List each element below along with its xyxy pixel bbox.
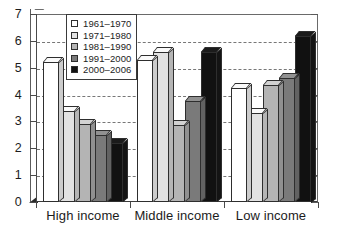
bar-side-face [263, 109, 268, 202]
x-tick-3 [318, 202, 319, 208]
legend-item-label: 1991–2000 [83, 53, 131, 64]
bar-side-face [91, 120, 96, 202]
x-tick-1 [130, 202, 131, 208]
y-axis-label-0: 0 [2, 195, 22, 209]
legend-swatch-icon [71, 55, 78, 62]
bar-side-face [279, 81, 284, 202]
y-axis-label-5: 5 [2, 61, 22, 75]
legend-item-label: 1961–1970 [83, 18, 131, 29]
legend-item-label: 1981–1990 [83, 41, 131, 52]
bar-front-face [231, 88, 247, 202]
x-tick-2 [224, 202, 225, 208]
bar-side-face [217, 47, 222, 202]
legend-item-1971-1980: 1971–1980 [71, 30, 131, 42]
bar-chart-figure: 01234567 High incomeMiddle incomeLow inc… [0, 0, 346, 236]
bar-high-income-1961-1970 [43, 62, 59, 202]
legend-item-1961-1970: 1961–1970 [71, 18, 131, 30]
legend-item-1981-1990: 1981–1990 [71, 41, 131, 53]
legend-item-1991-2000: 1991–2000 [71, 53, 131, 65]
y-axis-label-4: 4 [2, 88, 22, 102]
legend-item-2000-2006: 2000–2006 [71, 64, 131, 76]
legend-item-label: 1971–1980 [83, 30, 131, 41]
bar-side-face [201, 97, 206, 202]
bar-front-face [137, 60, 153, 202]
bar-side-face [75, 106, 80, 202]
y-axis-label-1: 1 [2, 168, 22, 182]
bar-side-face [247, 84, 252, 202]
bar-side-face [169, 47, 174, 202]
legend-swatch-icon [71, 43, 78, 50]
bar-side-face [123, 139, 128, 202]
bar-middle-income-1961-1970 [137, 60, 153, 202]
bar-side-face [107, 131, 112, 202]
legend-swatch-icon [71, 66, 78, 73]
x-tick-0 [36, 202, 37, 208]
y-axis-label-6: 6 [2, 34, 22, 48]
y-axis-tick-labels: 01234567 [0, 14, 22, 202]
bar-low-income-1961-1970 [231, 88, 247, 202]
bar-side-face [59, 58, 64, 202]
y-axis-label-2: 2 [2, 141, 22, 155]
legend-swatch-icon [71, 32, 78, 39]
bar-group-low-income [224, 14, 318, 202]
y-axis-label-3: 3 [2, 114, 22, 128]
bar-group-middle-income [130, 14, 224, 202]
y-tick-right-0 [311, 202, 318, 203]
x-axis-label-low-income: Low income [236, 208, 306, 223]
y-axis-label-7: 7 [2, 7, 22, 21]
x-axis-label-high-income: High income [46, 208, 119, 223]
bar-side-face [311, 31, 316, 202]
legend-item-label: 2000–2006 [83, 64, 131, 75]
bar-side-face [153, 55, 158, 202]
chart-legend: 1961–19701971–19801981–19901991–20002000… [66, 14, 137, 80]
bar-front-face [43, 62, 59, 202]
bar-side-face [295, 74, 300, 202]
bar-side-face [185, 121, 190, 202]
legend-swatch-icon [71, 20, 78, 27]
x-axis-label-middle-income: Middle income [134, 208, 219, 223]
